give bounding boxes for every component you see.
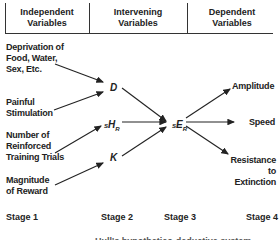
arrows [0, 0, 279, 240]
stage-3: Stage 3 [164, 212, 196, 222]
stage-1: Stage 1 [6, 212, 38, 222]
figure-caption: Hull's hypothetico-deductive system [95, 234, 251, 240]
stage-4: Stage 4 [246, 212, 278, 222]
stage-2: Stage 2 [101, 212, 133, 222]
